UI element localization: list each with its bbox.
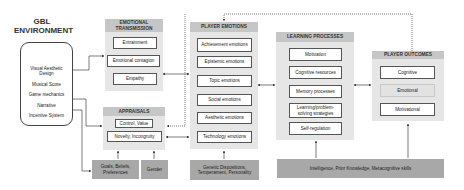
goals-beliefs-preferences-box: Goals, Beliefs, Preferences (92, 160, 139, 179)
topic-emotions-box: Topic emotions (197, 75, 252, 87)
novelty-incongruity-box: Novelty, Incongruity (107, 131, 162, 142)
player-outcomes-header: PLAYER OUTCOMES (372, 51, 444, 59)
gbl-environment-title: GBL ENVIRONMENT (14, 17, 70, 35)
entrainment-box: Entrainment (113, 37, 157, 49)
motivation-box: Motivation (289, 48, 342, 61)
gbl-environment-box: Visual Aesthetic Design Musical Score Ga… (20, 42, 73, 126)
cognitive-resources-box: Cognitive resources (289, 66, 342, 79)
achievement-emotions-box: Achievement emotions (197, 38, 252, 52)
gbl-item-musical-score: Musical Score (32, 82, 61, 88)
gbl-title-line1: GBL (14, 17, 70, 26)
gbl-item-game-mechanics: Game mechanics (29, 92, 65, 98)
emotional-transmission-header: EMOTIONAL TRANSMISSION (105, 19, 163, 32)
appraisals-header: APPRAISALS (103, 107, 165, 116)
learning-processes-header: LEARNING PROCESSES (276, 32, 354, 42)
epistemic-emotions-box: Epistemic emotions (197, 56, 252, 68)
technology-emotions-box: Technology emotions (197, 131, 252, 143)
gbl-title-line2: ENVIRONMENT (14, 26, 70, 35)
empathy-box: Empathy (113, 73, 157, 85)
aesthetic-emotions-box: Aesthetic emotions (197, 112, 252, 124)
control-value-box: Control, Value (115, 119, 153, 128)
gender-box: Gender (141, 160, 168, 179)
appraisals-panel: APPRAISALS (103, 107, 165, 150)
self-regulation-box: Self-regulation (289, 122, 342, 135)
social-emotions-box: Social emotions (197, 94, 252, 106)
learning-strategies-box: Learning/problem-solving strategies (289, 103, 342, 118)
motivational-outcome-box: Motivational (380, 103, 435, 116)
cognitive-outcome-box: Cognitive (380, 66, 435, 79)
emotional-outcome-box: Emotional (380, 84, 435, 97)
intelligence-knowledge-box: Intelligence, Prior Knowledge, Metacogni… (277, 159, 444, 178)
player-emotions-header: PLAYER EMOTIONS (190, 22, 258, 32)
memory-processes-box: Memory processes (289, 85, 342, 98)
gbl-item-visual-aesthetic-design: Visual Aesthetic Design (27, 66, 67, 77)
genetic-dispositions-box: Genetic Dispositions, Temperament, Perso… (190, 160, 259, 180)
emotional-transmission-title-line2: TRANSMISSION (116, 26, 153, 32)
emotional-contagion-box: Emotional contagion (107, 55, 160, 67)
gbl-item-narrative: Narrative (37, 103, 56, 109)
gbl-item-incentive-system: Incentive System (29, 113, 64, 119)
